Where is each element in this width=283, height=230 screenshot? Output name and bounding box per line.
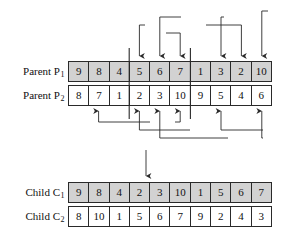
row-label-child-2-subscript: 2 [61, 215, 65, 224]
cell-parent-2-7: 9 [191, 86, 211, 105]
cell-parent-1-1: 9 [69, 62, 89, 81]
cell-parent-2-1: 8 [69, 86, 89, 105]
row-label-child-2-text: Child C [25, 210, 60, 222]
cell-child-2-5: 6 [150, 207, 170, 226]
cell-child-1-5: 3 [150, 183, 170, 202]
row-label-child-1-subscript: 1 [61, 191, 65, 200]
row-label-child-1: Child C1 [6, 187, 64, 198]
cell-parent-2-10: 6 [252, 86, 271, 105]
cell-parent-1-4: 5 [130, 62, 150, 81]
connector-path [175, 111, 180, 122]
connector-path [160, 17, 181, 56]
connector-path [139, 25, 145, 56]
cell-parent-2-2: 7 [89, 86, 109, 105]
cell-child-2-9: 4 [231, 207, 251, 226]
cell-child-1-1: 9 [69, 183, 89, 202]
cell-parent-1-8: 3 [211, 62, 231, 81]
row-label-parent-1: Parent P1 [6, 66, 64, 77]
row-label-parent-2: Parent P2 [6, 90, 64, 101]
row-label-child-2: Child C2 [6, 211, 64, 222]
connector-path [262, 11, 268, 56]
connector-path [206, 25, 241, 56]
sequence-row-parent-1: 98456713210 [68, 61, 272, 82]
cell-parent-1-5: 6 [150, 62, 170, 81]
cell-parent-1-3: 4 [110, 62, 130, 81]
cell-child-2-2: 10 [89, 207, 109, 226]
cell-parent-1-10: 10 [252, 62, 271, 81]
cell-child-2-3: 1 [110, 207, 130, 226]
connector-path [160, 111, 228, 138]
cell-child-1-8: 5 [211, 183, 231, 202]
cell-parent-2-9: 4 [231, 86, 251, 105]
row-label-parent-1-text: Parent P [23, 65, 60, 77]
row-label-child-1-text: Child C [25, 186, 60, 198]
cell-parent-2-4: 2 [130, 86, 150, 105]
cell-parent-1-2: 8 [89, 62, 109, 81]
cell-child-1-9: 6 [231, 183, 251, 202]
connector-path [262, 111, 263, 138]
cell-parent-2-6: 10 [170, 86, 190, 105]
cell-child-2-8: 2 [211, 207, 231, 226]
cell-child-1-3: 4 [110, 183, 130, 202]
cell-child-1-7: 1 [191, 183, 211, 202]
cell-parent-1-6: 7 [170, 62, 190, 81]
cell-child-2-1: 8 [69, 207, 89, 226]
sequence-row-child-2: 81015679243 [68, 206, 272, 227]
cell-parent-1-9: 2 [231, 62, 251, 81]
connector-path [221, 17, 224, 56]
cell-parent-2-3: 1 [110, 86, 130, 105]
sequence-row-parent-2: 87123109546 [68, 85, 272, 106]
sequence-row-child-1: 98423101567 [68, 182, 272, 203]
row-label-parent-2-subscript: 2 [61, 94, 65, 103]
cell-parent-2-8: 5 [211, 86, 231, 105]
cell-child-2-10: 3 [252, 207, 271, 226]
cell-child-2-6: 7 [170, 207, 190, 226]
cell-child-2-7: 9 [191, 207, 211, 226]
row-label-parent-1-subscript: 1 [61, 70, 65, 79]
connector-path [139, 111, 190, 130]
cell-parent-2-5: 3 [150, 86, 170, 105]
cell-parent-1-7: 1 [191, 62, 211, 81]
row-label-parent-2-text: Parent P [23, 89, 60, 101]
connector-path [166, 33, 180, 56]
connector-path [99, 111, 150, 122]
connector-path [221, 111, 263, 130]
cell-child-1-10: 7 [252, 183, 271, 202]
crossover-diagram: Parent P1 98456713210 Parent P2 87123109… [0, 0, 283, 230]
cell-child-1-6: 10 [170, 183, 190, 202]
cell-child-1-4: 2 [130, 183, 150, 202]
cell-child-1-2: 8 [89, 183, 109, 202]
cell-child-2-4: 5 [130, 207, 150, 226]
